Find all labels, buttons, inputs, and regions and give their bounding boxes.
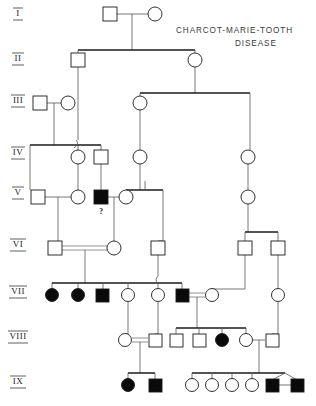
generation-label-text: I [16,8,19,18]
line-hop-icon-2 [156,276,158,283]
individual-female-unaffected[interactable] [188,53,202,67]
individual-male-unaffected[interactable] [170,334,183,347]
individual-male-affected-twin[interactable] [291,379,304,392]
individual-female-unaffected[interactable] [206,289,219,302]
generation-label-text: III [13,95,23,105]
generation-label-8: VIII [8,331,28,343]
generation-label-text: VII [11,286,25,296]
generation-label-7: VII [9,286,27,298]
individual-male-affected[interactable] [149,379,162,392]
individual-male-unaffected[interactable] [94,150,108,164]
generation-label-text: VI [13,239,23,249]
individual-male-unaffected[interactable] [193,334,206,347]
individual-female-unaffected[interactable] [241,150,255,164]
generation-label-text: V [15,187,22,197]
individual-male-unaffected[interactable] [266,334,279,347]
line-hop-icon [74,140,78,148]
title-line-2: DISEASE [235,39,277,48]
individual-male-unaffected[interactable] [31,190,45,204]
individual-male-unaffected[interactable] [48,241,62,255]
generation-row-V: ? [31,190,255,216]
generation-label-text: VIII [9,331,26,341]
pedigree-connections [30,14,297,385]
individual-male-affected[interactable] [176,289,189,302]
generation-label-3: III [11,95,25,107]
individual-male-unaffected[interactable] [33,96,47,110]
individual-female-affected[interactable] [216,334,229,347]
individual-female-unaffected[interactable] [272,289,285,302]
individual-female-unaffected[interactable] [71,190,85,204]
individual-female-unaffected[interactable] [240,334,253,347]
individual-female-unaffected[interactable] [152,289,165,302]
generation-row-IV [71,150,255,164]
individual-female-unaffected[interactable] [133,150,147,164]
individual-female-unaffected[interactable] [148,7,162,21]
individual-male-unaffected[interactable] [271,241,285,255]
generation-row-II [71,53,202,67]
generation-labels: I II III IV V [8,8,28,388]
individual-female-unaffected[interactable] [71,150,85,164]
uncertain-status-marker: ? [99,207,103,216]
individual-female-unaffected[interactable] [133,96,147,110]
generation-label-5: V [12,187,24,199]
generation-label-text: II [15,53,22,63]
individual-male-affected-twin[interactable] [266,379,279,392]
individual-female-unaffected[interactable] [186,379,199,392]
individual-female-unaffected[interactable] [61,96,75,110]
generation-label-2: II [12,53,24,65]
individual-female-unaffected[interactable] [226,379,239,392]
generation-row-VI [48,241,285,255]
individual-male-affected[interactable] [96,289,109,302]
individual-male-affected[interactable] [94,190,108,204]
generation-label-6: VI [10,239,26,251]
individual-female-unaffected[interactable] [119,190,133,204]
chart-title: CHARCOT-MARIE-TOOTH DISEASE [176,26,293,48]
generation-label-text: IV [13,147,23,157]
individual-female-affected[interactable] [46,289,59,302]
generation-label-1: I [13,8,23,20]
individual-female-unaffected[interactable] [206,379,219,392]
individual-male-unaffected[interactable] [149,334,162,347]
generation-label-9: IX [10,376,26,388]
individual-male-unaffected[interactable] [103,7,117,21]
generation-label-text: IX [13,376,23,386]
generation-row-VII [46,289,285,303]
individual-female-affected[interactable] [72,289,85,302]
individual-male-unaffected[interactable] [71,53,85,67]
individual-female-unaffected[interactable] [246,379,259,392]
individual-male-unaffected[interactable] [238,241,252,255]
generation-row-IX [122,379,305,393]
individual-male-unaffected[interactable] [151,241,165,255]
individual-female-unaffected[interactable] [107,241,121,255]
individual-female-unaffected[interactable] [241,190,255,204]
pedigree-diagram: I II III IV V [0,0,316,406]
title-line-1: CHARCOT-MARIE-TOOTH [176,26,293,35]
pedigree-chart: I II III IV V [0,0,316,406]
individual-female-unaffected[interactable] [119,334,132,347]
individual-female-unaffected[interactable] [122,289,135,302]
generation-label-4: IV [11,147,25,159]
individual-female-affected[interactable] [122,379,135,392]
